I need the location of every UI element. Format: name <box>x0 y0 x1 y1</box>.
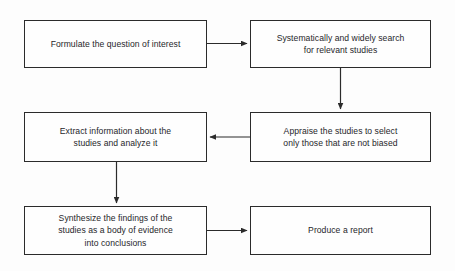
flow-edges-layer <box>0 0 455 271</box>
flowchart-canvas: Formulate the question of interest Syste… <box>0 0 455 271</box>
